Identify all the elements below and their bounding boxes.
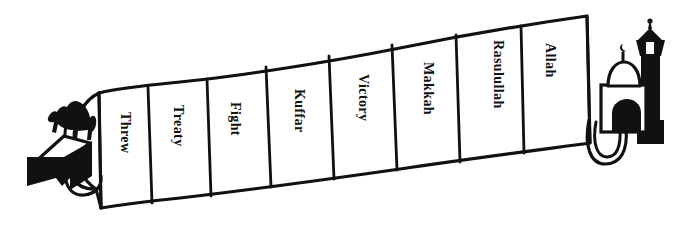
divider-0	[99, 93, 101, 208]
minaret-lantern-window	[646, 42, 654, 54]
diagram-canvas: Threw Treaty Fight Kuffar Victory Makkah…	[0, 0, 688, 243]
banner-diagram-svg	[0, 0, 688, 243]
minaret-finial-ball	[647, 18, 652, 23]
